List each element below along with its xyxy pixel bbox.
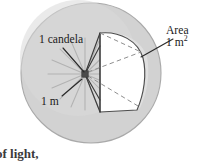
label-area-value-line: 1 m2 [166,37,189,49]
label-candela: 1 candela [39,34,83,46]
caption-fragment: of light, [0,147,39,161]
label-distance: 1 m [41,96,59,108]
point-source-dot-icon [82,71,88,77]
label-area-exponent: 2 [184,34,188,43]
label-area-value: 1 m [166,36,184,49]
label-area: Area 1 m2 [166,25,189,49]
figure-canvas: 1 candela 1 m Area 1 m2 of light, [0,0,207,166]
